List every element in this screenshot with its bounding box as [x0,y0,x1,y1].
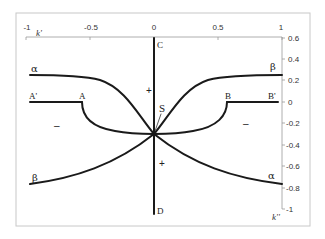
sign-minus-left: – [54,120,60,131]
top-tick-label: 1 [279,23,284,32]
point-labels: C D S A A' B B' [29,40,276,216]
label-alpha-left: α [31,63,38,74]
alpha-lower-right-curve [154,134,282,184]
right-tick-label: 0 [288,98,293,107]
top-tick-label: 0.5 [212,23,224,32]
label-b-prime: B' [268,91,276,101]
beta-lower-left-curve [30,134,154,184]
top-tick-label: -1 [23,23,31,32]
alpha-upper-left-curve [30,75,154,134]
right-tick-label: 0.4 [288,55,300,64]
label-d: D [157,206,164,216]
label-beta-left: β [32,172,38,183]
label-alpha-right: α [268,170,275,181]
right-tick-label: -0.2 [286,119,300,128]
right-axis: 0.6 0.4 0.2 0 -0.2 -0.4 -0.6 -0.8 -1 k'' [272,34,300,222]
label-a: A [79,91,86,101]
label-beta-right: β [270,61,276,72]
right-tick-label: 0.2 [288,76,300,85]
a-s-curve [82,102,154,134]
label-a-prime: A' [29,91,37,101]
top-axis-title: k' [36,28,43,38]
right-tick-label: -0.4 [286,141,300,150]
sign-plus-lower: + [159,158,165,169]
right-tick-label: 0.6 [288,34,300,43]
right-tick-label: -0.8 [286,184,300,193]
sign-minus-right: – [243,118,249,129]
right-axis-title: k'' [272,212,281,222]
stability-diagram: -1 -0.5 0 0.5 1 k' 0.6 0.4 0.2 0 -0.2 -0… [0,0,325,239]
beta-upper-right-curve [154,75,282,134]
label-c: C [157,40,163,50]
top-tick-label: -0.5 [84,23,98,32]
right-tick-label: -0.6 [286,162,300,171]
right-tick-label: -1 [286,205,294,214]
sign-plus-upper: + [146,85,152,96]
top-tick-label: 0 [152,23,157,32]
label-s: S [159,102,165,114]
label-b: B [225,91,231,101]
